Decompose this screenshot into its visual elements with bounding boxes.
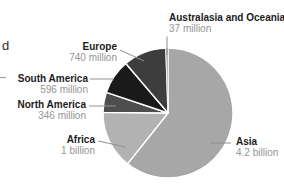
continent-name: Africa xyxy=(61,134,95,145)
label-north-america: North America 346 million xyxy=(17,99,86,121)
continent-value: 740 million xyxy=(69,52,117,63)
label-australasia-oceania: Australasia and Oceania 37 million xyxy=(169,12,284,34)
continent-name: Europe xyxy=(69,41,117,52)
continent-value: 596 million xyxy=(18,84,88,95)
cropped-text-fragment: d xyxy=(2,38,9,53)
continent-value: 346 million xyxy=(17,110,86,121)
label-asia: Asia 4.2 billion xyxy=(236,136,278,158)
label-south-america: South America 596 million xyxy=(18,73,88,95)
continent-name: Asia xyxy=(236,136,278,147)
continent-value: 4.2 billion xyxy=(236,147,278,158)
label-africa: Africa 1 billion xyxy=(61,134,95,156)
continent-name: Australasia and Oceania xyxy=(169,12,284,23)
population-pie-chart-figure: d Australasia and Oceania 37 million Eur… xyxy=(0,0,284,186)
cropped-leader-line-fragment xyxy=(0,77,6,78)
continent-name: South America xyxy=(18,73,88,84)
continent-value: 1 billion xyxy=(61,145,95,156)
continent-name: North America xyxy=(17,99,86,110)
label-europe: Europe 740 million xyxy=(69,41,117,63)
continent-value: 37 million xyxy=(169,23,284,34)
